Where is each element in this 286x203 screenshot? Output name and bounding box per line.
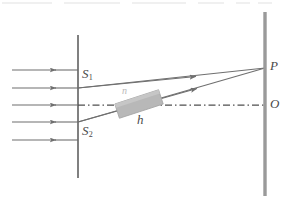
label-refractive-index-n: n bbox=[122, 86, 127, 96]
label-slit-s1: S1 bbox=[82, 67, 93, 80]
label-point-p: P bbox=[270, 59, 278, 72]
label-slit-s2: S2 bbox=[82, 124, 93, 137]
ray-from-s1-to-p bbox=[78, 68, 265, 88]
diagram-canvas bbox=[0, 0, 286, 203]
ray-from-s2-to-p bbox=[78, 68, 265, 122]
label-thickness-h: h bbox=[137, 113, 144, 126]
optics-diagram-figure: S1 S2 P O h n bbox=[0, 0, 286, 203]
incoming-wavefront-rays bbox=[12, 70, 78, 140]
label-point-o: O bbox=[270, 97, 279, 110]
